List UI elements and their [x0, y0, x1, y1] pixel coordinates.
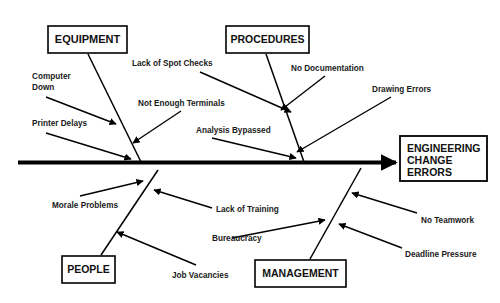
cause-label-no-documentation: No Documentation	[291, 64, 364, 73]
cause-label-lack-of-spot-checks: Lack of Spot Checks	[132, 59, 213, 68]
category-box-equipment[interactable]: EQUIPMENT	[48, 26, 127, 53]
cause-arrow-drawing-errors	[297, 97, 391, 152]
cause-label-computer-down-line2: Down	[32, 83, 54, 92]
cause-label-bureaucracy: Bureaucracy	[212, 234, 262, 243]
cause-label-computer-down-line1: Computer	[32, 72, 71, 81]
cause-arrow-no-documentation	[281, 76, 325, 110]
fishbone-diagram: Computer Down Printer Delays Not Enough …	[0, 0, 500, 303]
cause-arrow-printer-delays	[46, 133, 131, 159]
bone-management	[310, 168, 361, 259]
effect-label-line2: CHANGE	[407, 154, 453, 166]
cause-label-not-enough-terminals: Not Enough Terminals	[138, 99, 225, 108]
category-box-procedures[interactable]: PROCEDURES	[226, 26, 309, 53]
category-label-equipment: EQUIPMENT	[55, 33, 121, 45]
effect-label-line1: ENGINEERING	[407, 142, 481, 154]
cause-label-morale-problems: Morale Problems	[52, 201, 118, 210]
cause-label-printer-delays: Printer Delays	[32, 119, 88, 128]
cause-arrow-morale-problems	[80, 181, 143, 196]
effect-label-line3: ERRORS	[407, 166, 452, 178]
cause-arrow-job-vacancies	[117, 232, 196, 265]
cause-label-drawing-errors: Drawing Errors	[372, 85, 432, 94]
effect-box[interactable]: ENGINEERING CHANGE ERRORS	[400, 136, 487, 181]
cause-label-deadline-pressure: Deadline Pressure	[405, 250, 477, 259]
bone-equipment	[88, 54, 141, 162]
cause-arrow-deadline-pressure	[339, 224, 402, 248]
cause-arrow-analysis-bypassed	[212, 138, 296, 158]
category-label-people: PEOPLE	[67, 263, 110, 275]
category-label-management: MANAGEMENT	[262, 267, 339, 279]
cause-arrow-not-enough-terminals	[133, 111, 181, 143]
cause-label-analysis-bypassed: Analysis Bypassed	[196, 126, 271, 135]
cause-arrow-no-teamwork	[352, 193, 417, 213]
cause-label-lack-of-training: Lack of Training	[216, 205, 279, 214]
bone-people	[101, 170, 158, 255]
cause-label-no-teamwork: No Teamwork	[421, 216, 475, 225]
cause-arrow-lack-of-training	[154, 190, 212, 208]
category-box-management[interactable]: MANAGEMENT	[255, 260, 346, 287]
cause-label-job-vacancies: Job Vacancies	[172, 271, 229, 280]
category-label-procedures: PROCEDURES	[230, 33, 304, 45]
category-box-people[interactable]: PEOPLE	[62, 256, 115, 283]
fishbone-canvas: Computer Down Printer Delays Not Enough …	[0, 0, 500, 303]
